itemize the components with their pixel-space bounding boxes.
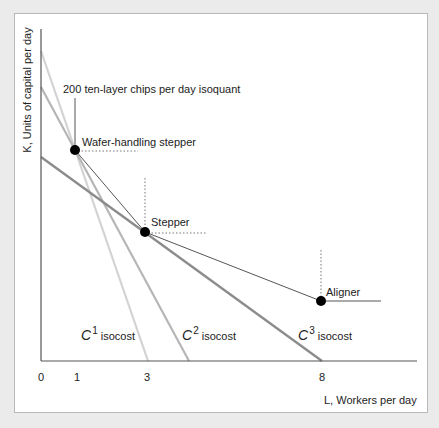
c1-sup: 1 [92,325,98,336]
stepper-label: Stepper [151,217,190,228]
c2-sup: 2 [193,325,199,336]
c3-tail: isocost [318,330,352,342]
wafer-handling-stepper-point [70,145,80,155]
x-tick-8: 8 [319,372,325,383]
isoquant-isocost-chart [0,0,439,428]
aligner-point [316,296,326,306]
x-tick-1: 1 [74,372,80,383]
x-tick-0: 0 [38,372,44,383]
c1-isocost-label: C1 isocost [81,326,135,342]
x-axis-label: L, Workers per day [324,395,417,406]
c1-tail: isocost [101,330,135,342]
y-axis-label: K, Units of capital per day [21,27,33,152]
c3-base: C [298,327,308,343]
aligner-label: Aligner [326,287,360,298]
c2-isocost-label: C2 isocost [182,326,236,342]
c2-tail: isocost [202,330,236,342]
x-tick-3: 3 [144,372,150,383]
c2-base: C [182,327,192,343]
x-axis-label-text: L, Workers per day [324,394,417,406]
isocost-c1-line [41,51,148,361]
isoquant-line [75,98,381,301]
c3-isocost-label: C3 isocost [298,326,352,342]
c1-base: C [81,327,91,343]
wafer-handling-stepper-label: Wafer-handling stepper [82,137,196,148]
isoquant-label: 200 ten-layer chips per day isoquant [63,84,240,95]
c3-sup: 3 [309,325,315,336]
stepper-point [140,227,150,237]
